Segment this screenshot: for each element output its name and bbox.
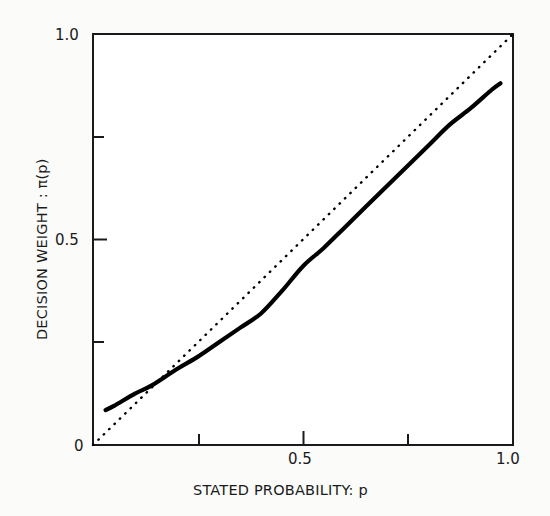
x-tick-label-middle: 0.5 xyxy=(288,450,312,468)
y-axis-title: DECISION WEIGHT : π(p) xyxy=(34,158,50,340)
y-tick-label-top: 1.0 xyxy=(55,26,79,44)
x-axis-title: STATED PROBABILITY: p xyxy=(193,482,368,498)
y-tick-label-middle: 0.5 xyxy=(55,231,79,249)
x-tick-label-right: 1.0 xyxy=(496,450,520,468)
figure-container: 1.0 0.5 0 0.5 1.0 DECISION WEIGHT : π(p)… xyxy=(0,0,550,516)
y-tick-label-bottom: 0 xyxy=(74,437,84,455)
